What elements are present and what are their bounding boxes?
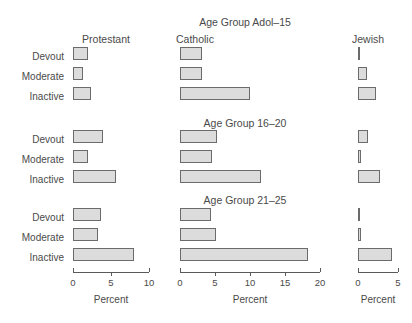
axis-tick-label-catholic-5: 5 xyxy=(212,278,217,288)
category-label-moderate-g1: Moderate xyxy=(22,72,64,82)
category-label-devout-g2: Devout xyxy=(32,135,64,145)
bar-catholic-adol15-inactive xyxy=(180,87,250,100)
column-title-protestant: Protestant xyxy=(66,33,146,45)
axis-tick-label-protestant-0: 0 xyxy=(70,278,75,288)
category-label-inactive-g2: Inactive xyxy=(30,175,64,185)
bar-jewish-1620-devout xyxy=(358,130,368,143)
axis-title-catholic: Percent xyxy=(210,294,290,305)
axis-line-jewish xyxy=(358,272,398,273)
bar-protestant-adol15-devout xyxy=(73,47,88,60)
axis-tick-label-catholic-15: 15 xyxy=(280,278,291,288)
bar-jewish-2125-inactive xyxy=(358,248,392,261)
axis-tick-catholic-5 xyxy=(215,272,216,276)
axis-tick-label-protestant-10: 10 xyxy=(144,278,155,288)
category-label-inactive-g3: Inactive xyxy=(30,253,64,263)
axis-title-jewish: Percent xyxy=(338,294,412,305)
bar-protestant-adol15-inactive xyxy=(73,87,91,100)
bar-jewish-1620-moderate xyxy=(358,150,361,163)
bar-protestant-1620-devout xyxy=(73,130,103,143)
category-label-moderate-g3: Moderate xyxy=(22,233,64,243)
group-title-adol-15: Age Group Adol–15 xyxy=(165,16,325,28)
bar-protestant-2125-devout xyxy=(73,208,101,221)
axis-tick-catholic-10 xyxy=(250,272,251,276)
axis-tick-label-catholic-10: 10 xyxy=(245,278,256,288)
bar-catholic-1620-devout xyxy=(180,130,217,143)
bar-catholic-2125-devout xyxy=(180,208,211,221)
bar-catholic-adol15-devout xyxy=(180,47,202,60)
group-title-16-20: Age Group 16–20 xyxy=(165,117,325,129)
category-label-inactive-g1: Inactive xyxy=(30,92,64,102)
axis-tick-label-jewish-5: 5 xyxy=(395,278,400,288)
bar-jewish-2125-devout xyxy=(358,208,360,221)
bar-jewish-1620-inactive xyxy=(358,170,380,183)
bar-catholic-1620-moderate xyxy=(180,150,212,163)
bar-jewish-2125-moderate xyxy=(358,228,361,241)
axis-tick-catholic-15 xyxy=(285,272,286,276)
category-label-devout-g3: Devout xyxy=(32,213,64,223)
axis-tick-jewish-0 xyxy=(358,268,359,272)
axis-tick-label-catholic-20: 20 xyxy=(315,278,326,288)
axis-tick-catholic-20 xyxy=(320,268,321,272)
axis-tick-protestant-10 xyxy=(149,268,150,272)
column-title-catholic: Catholic xyxy=(176,33,256,45)
axis-title-protestant: Percent xyxy=(71,294,151,305)
axis-tick-label-protestant-5: 5 xyxy=(108,278,113,288)
bar-catholic-2125-inactive xyxy=(180,248,308,261)
axis-tick-label-jewish-0: 0 xyxy=(355,278,360,288)
bar-catholic-1620-inactive xyxy=(180,170,261,183)
group-title-21-25: Age Group 21–25 xyxy=(165,194,325,206)
bar-protestant-2125-moderate xyxy=(73,228,98,241)
axis-tick-label-catholic-0: 0 xyxy=(177,278,182,288)
bar-jewish-adol15-inactive xyxy=(358,87,376,100)
bar-catholic-2125-moderate xyxy=(180,228,216,241)
figure-panel-grid: Protestant Catholic Jewish Age Group Ado… xyxy=(0,0,412,323)
bar-jewish-adol15-devout xyxy=(358,47,360,60)
bar-catholic-adol15-moderate xyxy=(180,67,202,80)
bar-jewish-adol15-moderate xyxy=(358,67,367,80)
column-title-jewish: Jewish xyxy=(352,33,412,45)
axis-tick-protestant-0 xyxy=(73,268,74,272)
bar-protestant-2125-inactive xyxy=(73,248,134,261)
axis-tick-catholic-0 xyxy=(180,268,181,272)
bar-protestant-1620-moderate xyxy=(73,150,88,163)
category-label-devout-g1: Devout xyxy=(32,52,64,62)
bar-protestant-1620-inactive xyxy=(73,170,116,183)
bar-protestant-adol15-moderate xyxy=(73,67,83,80)
axis-tick-jewish-5 xyxy=(398,268,399,272)
axis-tick-protestant-5 xyxy=(111,272,112,276)
category-label-moderate-g2: Moderate xyxy=(22,155,64,165)
